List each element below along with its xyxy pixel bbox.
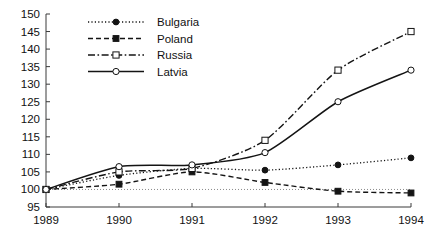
data-point-marker [113, 68, 119, 74]
x-tick-label: 1994 [398, 214, 424, 226]
data-point-marker [335, 99, 341, 105]
x-tick-label: 1993 [325, 214, 351, 226]
data-point-marker [116, 181, 122, 187]
y-tick-label: 145 [21, 26, 40, 38]
data-point-marker [262, 137, 268, 143]
data-point-marker [262, 167, 268, 173]
data-point-marker [335, 162, 341, 168]
y-tick-label: 135 [21, 61, 40, 73]
y-tick-label: 150 [21, 8, 40, 20]
y-tick-label: 100 [21, 183, 40, 195]
series-line [46, 158, 411, 190]
data-point-marker [408, 190, 414, 196]
series-poland [43, 169, 414, 196]
series-line [46, 70, 411, 189]
data-point-marker [113, 52, 119, 58]
data-point-marker [335, 67, 341, 73]
series-latvia [43, 67, 414, 193]
series-russia [43, 28, 414, 192]
x-tick-label: 1992 [252, 214, 278, 226]
chart-canvas: 95100105110115120125130135140145150 1989… [0, 0, 425, 240]
data-point-marker [116, 164, 122, 170]
legend-label: Poland [157, 33, 193, 45]
x-axis: 198919901991199219931994 [33, 203, 424, 226]
data-point-marker [408, 155, 414, 161]
data-point-marker [408, 67, 414, 73]
data-point-marker [113, 19, 119, 25]
y-tick-label: 115 [22, 131, 40, 143]
series-layer [43, 28, 414, 195]
line-chart: 95100105110115120125130135140145150 1989… [0, 0, 425, 240]
x-tick-label: 1989 [33, 214, 59, 226]
data-point-marker [189, 162, 195, 168]
y-tick-label: 120 [21, 113, 40, 125]
data-point-marker [262, 180, 268, 186]
data-point-marker [43, 186, 49, 192]
chart-legend: BulgariaPolandRussiaLatvia [88, 16, 200, 78]
legend-item-latvia: Latvia [88, 66, 188, 78]
y-tick-label: 110 [22, 148, 40, 160]
legend-label: Latvia [157, 66, 188, 78]
data-point-marker [408, 28, 414, 34]
y-tick-label: 105 [21, 166, 40, 178]
series-line [46, 32, 411, 190]
legend-item-bulgaria: Bulgaria [88, 16, 200, 28]
legend-item-russia: Russia [88, 49, 193, 61]
x-tick-label: 1991 [179, 214, 205, 226]
y-tick-label: 95 [27, 201, 40, 213]
y-tick-label: 140 [21, 43, 40, 55]
x-tick-label: 1990 [106, 214, 132, 226]
y-tick-label: 125 [21, 96, 40, 108]
legend-item-poland: Poland [88, 33, 193, 45]
data-point-marker [113, 36, 119, 42]
data-point-marker [262, 150, 268, 156]
y-axis: 95100105110115120125130135140145150 [21, 8, 50, 213]
data-point-marker [335, 188, 341, 194]
legend-label: Bulgaria [157, 16, 200, 28]
legend-label: Russia [157, 49, 193, 61]
y-tick-label: 130 [21, 78, 40, 90]
